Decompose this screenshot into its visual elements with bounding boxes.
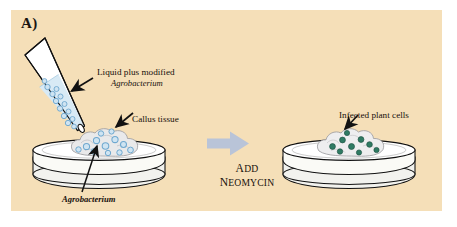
process-arrow-icon (207, 132, 249, 156)
callus-tissue-right (317, 129, 383, 157)
caption-add-initial: A (236, 162, 245, 175)
label-liquid-plus-modified: Liquid plus modified Agrobacterium (97, 67, 175, 88)
label-liquid-line2-agrobacterium: Agrobacterium (111, 79, 175, 89)
process-arrow-caption: ADD NEOMYCIN (204, 162, 290, 189)
caption-line-neomycin: NEOMYCIN (204, 176, 290, 190)
label-liquid-line1: Liquid plus modified (97, 67, 175, 77)
liquid-label-arrow (72, 78, 94, 91)
caption-line-add: ADD (204, 162, 290, 176)
right-scene (283, 115, 415, 189)
caption-neomycin-rest: EOMYCIN (228, 177, 274, 188)
label-agrobacterium: Agrobacterium (62, 195, 115, 205)
caption-neomycin-initial: N (220, 176, 229, 189)
pipette (25, 38, 85, 133)
label-infected-plant-cells: Infected plant cells (339, 110, 409, 121)
label-callus-tissue: Callus tissue (132, 114, 179, 125)
figure-panel: A) (11, 10, 442, 211)
caption-add-rest: DD (244, 163, 258, 174)
callus-label-arrow (116, 113, 133, 127)
figure-root: A) (0, 0, 457, 227)
